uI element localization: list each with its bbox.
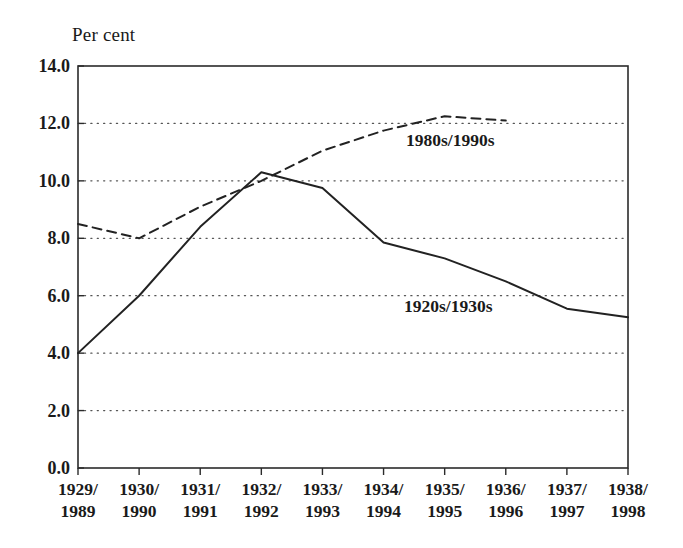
series-label-1920s-1930s: 1920s/1930s — [404, 296, 492, 317]
x-axis-tick-labels: 1929/19891930/19901931/19911932/19921933… — [0, 0, 683, 548]
x-tick-label-line-top: 1938/ — [583, 478, 673, 500]
series-label-1980s-1990s: 1980s/1990s — [406, 130, 494, 151]
x-tick-label: 1938/1998 — [583, 478, 673, 523]
x-tick-label-line-bottom: 1998 — [583, 500, 673, 522]
line-chart-figure: Per cent 0.02.04.06.08.010.012.014.0 192… — [0, 0, 683, 548]
